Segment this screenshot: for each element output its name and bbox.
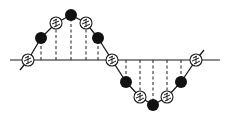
solid-sample-marker bbox=[175, 76, 187, 88]
solid-sample-marker bbox=[65, 9, 77, 21]
patterned-sample-marker bbox=[161, 91, 173, 103]
solid-sample-marker bbox=[92, 32, 104, 44]
solid-sample-marker bbox=[35, 32, 47, 44]
sampled-sine-diagram bbox=[0, 0, 225, 118]
patterned-sample-marker bbox=[190, 54, 202, 66]
solid-sample-marker bbox=[147, 99, 159, 111]
patterned-sample-marker bbox=[22, 54, 34, 66]
patterned-sample-marker bbox=[80, 17, 92, 29]
solid-sample-marker bbox=[120, 76, 132, 88]
patterned-sample-marker bbox=[134, 91, 146, 103]
patterned-sample-marker bbox=[106, 54, 118, 66]
patterned-sample-marker bbox=[50, 17, 62, 29]
